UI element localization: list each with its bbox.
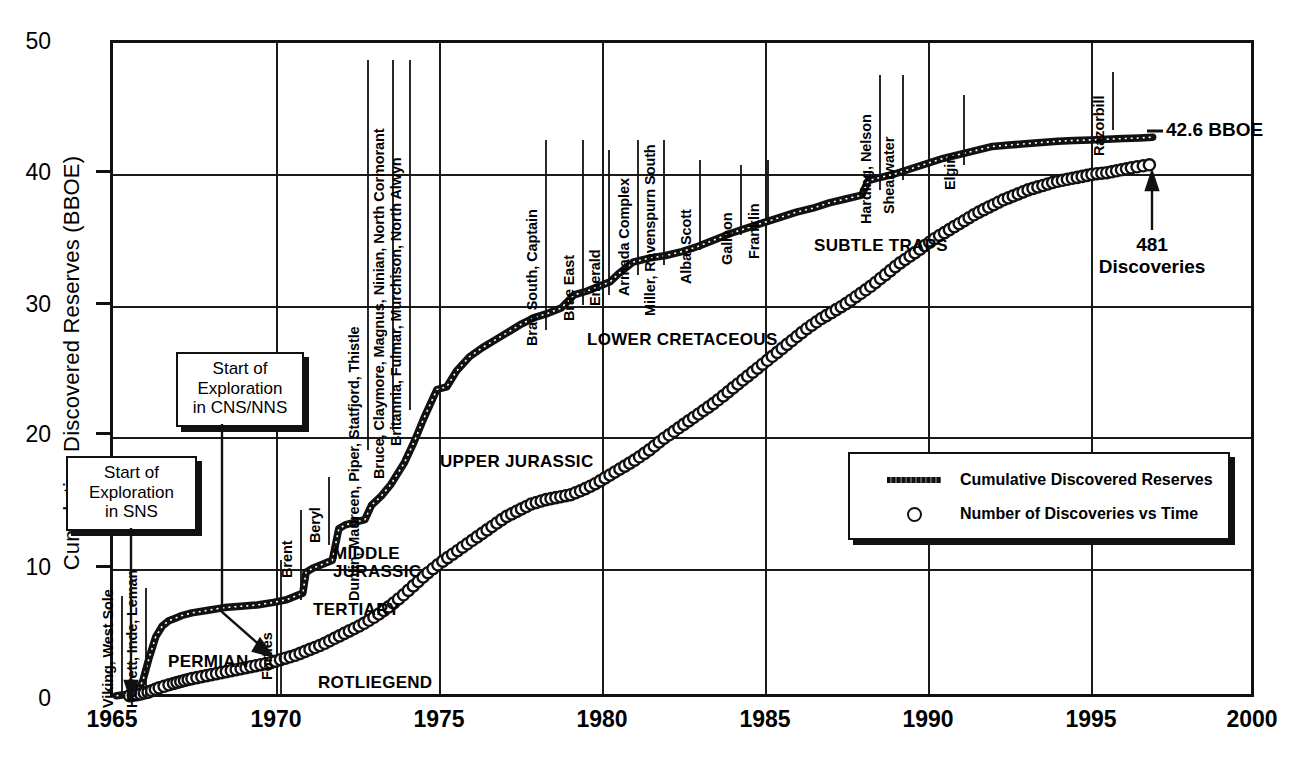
vlabel-hewett: Hewett, Inde, Leman <box>124 570 140 708</box>
play-label-tertiary: TERTIARY <box>313 600 400 620</box>
callout-cns-line2: Exploration <box>187 379 293 399</box>
vlabel-brent: Brent <box>279 541 295 578</box>
gridline-1980 <box>602 43 604 694</box>
annotation-discoveries: 481 Discoveries <box>1099 234 1206 278</box>
vlabel-razorbill: Razorbill <box>1091 96 1107 156</box>
y-tick-0: 0 <box>0 685 51 712</box>
vlabel-emerald: Emerald <box>587 249 603 306</box>
vlabel-alba: Alba, Scott <box>678 209 694 284</box>
vlabel-miller: Miller, Ravenspurn South <box>642 144 658 316</box>
y-tick-10: 10 <box>0 554 51 581</box>
annotation-discoveries-word: Discoveries <box>1099 256 1206 278</box>
annotation-total-bboe: 42.6 BBOE <box>1166 119 1263 141</box>
play-label-subtle-traps: SUBTLE TRAPS <box>814 236 948 256</box>
chart-legend: Cumulative Discovered Reserves Number of… <box>848 452 1230 540</box>
vlabel-armada: Armada Complex <box>616 178 632 296</box>
vlabel-elgin: Elgin <box>942 155 958 190</box>
y-tick-mark-30 <box>96 302 110 305</box>
vlabel-bruce: Bruce, Claymore, Magnus, Ninian, North C… <box>371 129 387 480</box>
vlabel-franklin: Franklin <box>746 203 762 259</box>
vlabel-viking: Viking, West Sole <box>100 589 116 708</box>
legend-circle-swatch <box>868 507 960 522</box>
play-label-lower-cretaceous: LOWER CRETACEOUS <box>587 330 778 350</box>
callout-sns-line1: Start of <box>77 463 186 483</box>
callout-cns: Start of Exploration in CNS/NNS <box>176 352 304 427</box>
callout-cns-line1: Start of <box>187 359 293 379</box>
y-tick-50: 50 <box>0 28 51 55</box>
x-tick-1985: 1985 <box>739 706 790 733</box>
gridline-40 <box>113 174 1251 176</box>
gridline-20 <box>113 437 1251 439</box>
x-tick-1975: 1975 <box>413 706 464 733</box>
annotation-discoveries-count: 481 <box>1099 234 1206 256</box>
y-tick-40: 40 <box>0 159 51 186</box>
x-tick-1970: 1970 <box>250 706 301 733</box>
legend-line-swatch <box>868 477 960 483</box>
legend-label-reserves: Cumulative Discovered Reserves <box>960 471 1213 489</box>
vlabel-forties: Forties <box>259 632 275 680</box>
x-tick-1990: 1990 <box>902 706 953 733</box>
play-label-middle-jurassic-line2: JURASSIC <box>333 563 421 581</box>
y-tick-mark-40 <box>96 170 110 173</box>
vlabel-beryl: Beryl <box>307 507 323 543</box>
y-tick-30: 30 <box>0 291 51 318</box>
callout-sns: Start of Exploration in SNS <box>66 456 197 531</box>
x-tick-1995: 1995 <box>1065 706 1116 733</box>
y-axis-title: Cumulative Discovered Reserves (BBOE) <box>59 53 85 673</box>
gridline-30 <box>113 306 1251 308</box>
vlabel-britannia: Britannia, Fulmar, Murchison, North Alwy… <box>388 157 404 446</box>
y-tick-mark-20 <box>96 432 110 435</box>
x-tick-2000: 2000 <box>1226 706 1277 733</box>
y-tick-20: 20 <box>0 421 51 448</box>
vlabel-braeeast: Brae East <box>561 255 577 321</box>
legend-row-reserves: Cumulative Discovered Reserves <box>850 463 1228 497</box>
gridline-1975 <box>439 43 441 694</box>
legend-label-discoveries: Number of Discoveries vs Time <box>960 505 1198 523</box>
vlabel-harding: Harding, Nelson <box>858 114 874 224</box>
play-label-permian: PERMIAN <box>168 652 249 672</box>
vlabel-shearwater: Shearwater <box>881 137 897 214</box>
legend-row-discoveries: Number of Discoveries vs Time <box>850 497 1228 531</box>
callout-sns-line3: in SNS <box>77 502 186 522</box>
callout-cns-line3: in CNS/NNS <box>187 398 293 418</box>
x-tick-1965: 1965 <box>86 706 137 733</box>
chart-root: Cumulative Discovered Reserves (BBOE) 50… <box>0 0 1309 769</box>
vlabel-galleon: Galleon <box>719 213 735 265</box>
gridline-1985 <box>765 43 767 694</box>
y-tick-mark-10 <box>96 565 110 568</box>
callout-sns-line2: Exploration <box>77 483 186 503</box>
x-tick-1980: 1980 <box>576 706 627 733</box>
play-label-middle-jurassic: MIDDLE JURASSIC <box>333 545 421 582</box>
play-label-middle-jurassic-line1: MIDDLE <box>333 545 421 563</box>
play-label-upper-jurassic: UPPER JURASSIC <box>440 452 593 472</box>
gridline-1990 <box>928 43 930 694</box>
vlabel-braesouth: Brae South, Captain <box>524 209 540 346</box>
play-label-rotliegend: ROTLIEGEND <box>318 673 432 693</box>
